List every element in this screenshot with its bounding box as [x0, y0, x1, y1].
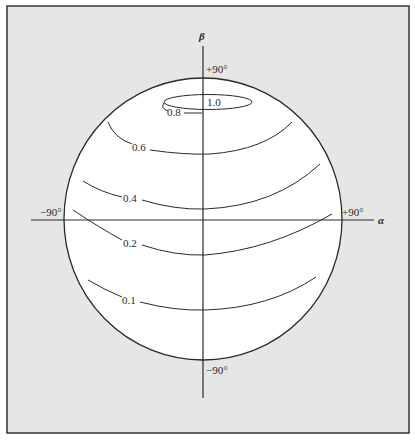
- contour-label-0-8: 0.8: [167, 106, 181, 118]
- alpha-max-label: +90°: [342, 206, 364, 218]
- contour-label-1-0: 1.0: [207, 96, 221, 108]
- contour-sphere-figure: 1.0 0.8 0.6 0.4 0.2 0.1 β α +90° −90° −9…: [0, 0, 415, 443]
- contour-label-0-2: 0.2: [123, 237, 137, 249]
- alpha-axis-label: α: [378, 214, 385, 226]
- alpha-min-label: −90°: [40, 206, 62, 218]
- contour-label-0-4: 0.4: [123, 192, 137, 204]
- beta-max-label: +90°: [206, 63, 228, 75]
- contour-label-0-6: 0.6: [132, 141, 146, 153]
- contour-label-0-1: 0.1: [122, 294, 136, 306]
- beta-axis-label: β: [198, 30, 205, 42]
- beta-min-label: −90°: [206, 364, 228, 376]
